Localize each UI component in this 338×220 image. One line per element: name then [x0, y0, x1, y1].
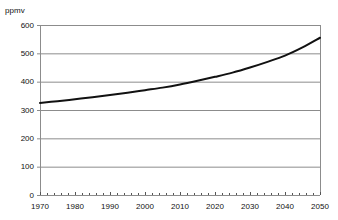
y-tick-label-100: 100: [21, 162, 35, 171]
y-tick-labels-group: 0100200300400500600: [21, 21, 40, 200]
x-minor-ticks-group: [41, 192, 321, 195]
x-tick-label-2050: 2050: [311, 202, 329, 211]
data-line-series-0: [40, 38, 320, 103]
x-tick-label-2010: 2010: [171, 202, 189, 211]
x-tick-label-2020: 2020: [206, 202, 224, 211]
y-tick-label-500: 500: [21, 49, 35, 58]
y-tick-label-200: 200: [21, 134, 35, 143]
gridlines-group: [40, 26, 320, 168]
y-tick-label-400: 400: [21, 77, 35, 86]
x-tick-label-2030: 2030: [241, 202, 259, 211]
y-tick-label-300: 300: [21, 106, 35, 115]
x-tick-label-1980: 1980: [66, 202, 84, 211]
y-tick-label-0: 0: [30, 191, 35, 200]
data-series-group: [40, 38, 320, 103]
co2-concentration-chart: ppmv 0100200300400500600 197019801990200…: [0, 0, 338, 220]
x-tick-labels-group: 197019801990200020102020203020402050: [31, 202, 329, 211]
x-tick-label-2000: 2000: [136, 202, 154, 211]
x-tick-label-1990: 1990: [101, 202, 119, 211]
x-tick-label-1970: 1970: [31, 202, 49, 211]
chart-plot-area: 0100200300400500600 19701980199020002010…: [0, 0, 338, 220]
y-tick-label-600: 600: [21, 21, 35, 30]
x-tick-label-2040: 2040: [276, 202, 294, 211]
